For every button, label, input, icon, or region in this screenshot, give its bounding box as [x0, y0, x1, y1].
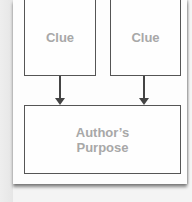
clue-box-right: Clue	[110, 0, 181, 76]
clue-label: Clue	[46, 30, 74, 45]
authors-purpose-label: Author’s Purpose	[73, 125, 133, 155]
arrow-down-icon	[143, 76, 145, 99]
arrow-down-icon	[59, 76, 61, 99]
clue-label: Clue	[131, 30, 159, 45]
clue-box-left: Clue	[24, 0, 96, 76]
authors-purpose-box: Author’s Purpose	[24, 105, 181, 174]
background	[0, 0, 13, 202]
